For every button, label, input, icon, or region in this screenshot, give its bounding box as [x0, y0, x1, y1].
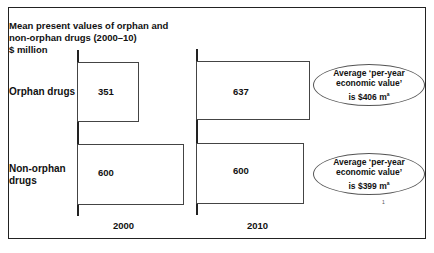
units-label: $ million [9, 44, 168, 56]
title-line-1: Mean present values of orphan and [9, 20, 168, 32]
callout-nonorphan-line-3: is $399 ma [333, 178, 405, 191]
row-label-line-2: drugs [9, 175, 66, 187]
value-nonorphan-2010: 600 [233, 165, 249, 176]
callout-orphan-line-3: is $406 ma [333, 89, 405, 102]
row-label-orphan: Orphan drugs [9, 86, 75, 98]
bar-nonorphan-2010 [196, 143, 304, 204]
footnote-mark: 1 [382, 199, 385, 205]
callout-nonorphan: Average ‘per-year economic value’ is $39… [313, 153, 425, 195]
callout-nonorphan-line-1: Average ‘per-year [333, 157, 405, 168]
value-orphan-2000: 351 [98, 86, 114, 97]
row-label-line-1: Non-orphan [9, 163, 66, 175]
value-nonorphan-2000: 600 [98, 167, 114, 178]
chart-title: Mean present values of orphan and non-or… [9, 20, 168, 56]
title-line-2: non-orphan drugs (2000–10) [9, 32, 168, 44]
bar-orphan-2010 [196, 61, 310, 120]
callout-orphan-line-1: Average ‘per-year [333, 68, 405, 79]
callout-nonorphan-line-2: economic value’ [333, 167, 405, 178]
callout-orphan-line-2: economic value’ [333, 78, 405, 89]
year-label-2000: 2000 [113, 220, 134, 231]
year-label-2010: 2010 [247, 220, 268, 231]
value-orphan-2010: 637 [233, 86, 249, 97]
row-label-nonorphan: Non-orphan drugs [9, 163, 66, 187]
callout-orphan: Average ‘per-year economic value’ is $40… [313, 64, 425, 106]
bar-nonorphan-2000 [77, 144, 184, 205]
